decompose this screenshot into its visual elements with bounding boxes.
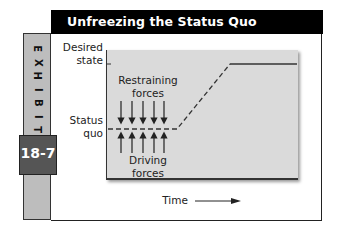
time-arrow-head — [231, 198, 241, 204]
status-quo-dashed-line — [108, 64, 230, 129]
restraining-arrows — [121, 101, 164, 121]
diagram-graphics — [0, 0, 338, 235]
driving-arrows — [121, 135, 164, 153]
